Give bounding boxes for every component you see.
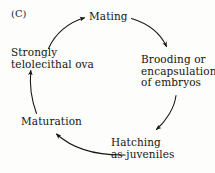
node-label-telolecithal-ova: Strongly telolecithal ova [11, 47, 94, 70]
arrow-mating-to-brooding [132, 19, 167, 47]
arrow-brooding-to-hatching [157, 96, 177, 130]
node-label-maturation: Maturation [21, 116, 82, 128]
arrow-ova-to-mating [49, 18, 85, 49]
node-label-mating: Mating [89, 11, 128, 23]
node-label-brooding: Brooding or encapsulation of embryos [141, 54, 215, 89]
arrow-maturation-to-ova [30, 71, 36, 114]
node-label-hatching: Hatching as juveniles [111, 137, 174, 160]
life-cycle-diagram: (C) Mating Brooding or encapsulation of … [0, 0, 215, 173]
